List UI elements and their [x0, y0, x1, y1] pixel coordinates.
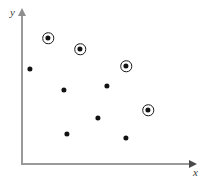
data-point	[95, 115, 100, 120]
y-axis-arrowhead-icon	[18, 8, 26, 16]
y-axis-line	[21, 16, 23, 165]
y-axis-label: y	[10, 7, 15, 18]
x-axis-line	[21, 163, 193, 165]
data-point	[64, 131, 69, 136]
scatter-plot-figure: y x	[0, 0, 206, 179]
data-point	[61, 87, 66, 92]
x-axis-label: x	[193, 167, 198, 178]
data-point	[123, 135, 128, 140]
data-point	[104, 83, 109, 88]
data-point	[27, 66, 32, 71]
